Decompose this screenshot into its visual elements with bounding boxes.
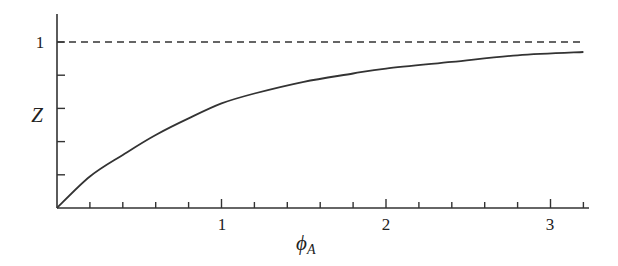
x-tick-label-2: 2 bbox=[382, 215, 391, 234]
y-tick-label-1: 1 bbox=[36, 33, 45, 52]
x-tick-label-3: 3 bbox=[546, 215, 555, 234]
data-curve bbox=[57, 52, 583, 208]
x-axis-label-main: ϕ bbox=[296, 231, 307, 255]
axes bbox=[57, 14, 589, 208]
x-axis-label: ϕA bbox=[296, 231, 316, 257]
x-axis-label-subscript: A bbox=[306, 242, 316, 257]
y-ticks bbox=[57, 42, 65, 175]
chart: 1 1 2 3 Z ϕA bbox=[0, 0, 618, 266]
x-tick-label-1: 1 bbox=[218, 215, 227, 234]
x-ticks bbox=[90, 199, 584, 208]
y-axis-label: Z bbox=[31, 103, 43, 127]
